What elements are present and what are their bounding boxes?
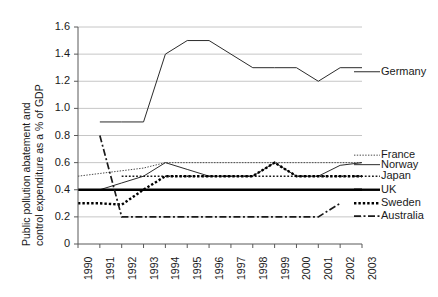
series-line-france bbox=[78, 163, 362, 177]
x-tick-label: 2002 bbox=[344, 257, 356, 280]
legend-item-norway: Norway bbox=[381, 158, 418, 170]
y-tick-label: 1.4 bbox=[36, 47, 70, 59]
x-tick-label: 1997 bbox=[235, 257, 247, 280]
x-tick-label: 1993 bbox=[148, 257, 160, 280]
y-tick-label: 0 bbox=[36, 237, 70, 249]
x-tick-label: 1994 bbox=[169, 257, 181, 280]
legend-item-australia: Australia bbox=[381, 209, 424, 221]
x-tick-marks bbox=[78, 244, 362, 248]
y-tick-label: 1.0 bbox=[36, 101, 70, 113]
x-tick-label: 2003 bbox=[366, 257, 378, 280]
legend-leader-lines bbox=[354, 72, 380, 216]
x-tick-label: 1992 bbox=[126, 257, 138, 280]
y-tick-label: 0.8 bbox=[36, 129, 70, 141]
series-lines bbox=[78, 41, 362, 217]
y-tick-label: 0.6 bbox=[36, 156, 70, 168]
x-tick-label: 2001 bbox=[322, 257, 334, 280]
legend-item-germany: Germany bbox=[381, 65, 426, 77]
x-tick-label: 1990 bbox=[82, 257, 94, 280]
y-tick-label: 0.4 bbox=[36, 183, 70, 195]
legend-item-sweden: Sweden bbox=[381, 196, 421, 208]
legend-item-japan: Japan bbox=[381, 169, 411, 181]
x-tick-label: 1991 bbox=[104, 257, 116, 280]
y-tick-label: 0.2 bbox=[36, 210, 70, 222]
y-tick-marks bbox=[74, 27, 78, 244]
legend-item-uk: UK bbox=[381, 183, 396, 195]
x-tick-label: 1996 bbox=[213, 257, 225, 280]
gridlines bbox=[78, 27, 362, 244]
x-tick-label: 1999 bbox=[279, 257, 291, 280]
y-tick-label: 1.2 bbox=[36, 74, 70, 86]
plot-area bbox=[0, 0, 438, 297]
x-tick-label: 1998 bbox=[257, 257, 269, 280]
x-tick-label: 1995 bbox=[191, 257, 203, 280]
chart-figure: Public pollution abatement and control e… bbox=[0, 0, 438, 297]
x-tick-label: 2000 bbox=[300, 257, 312, 280]
y-tick-label: 1.6 bbox=[36, 20, 70, 32]
